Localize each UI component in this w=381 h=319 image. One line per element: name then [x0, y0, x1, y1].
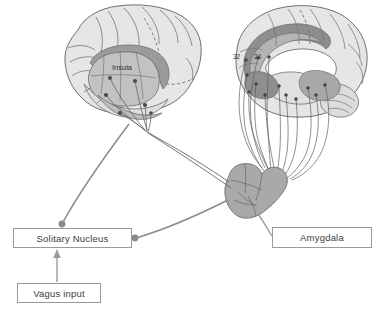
- right-medial-hemisphere: [236, 6, 367, 118]
- brainstem-amygdala-complex: [225, 164, 287, 219]
- amygdala-box[interactable]: Amygdala: [272, 227, 372, 248]
- arrow-vagus-to-solitary: [53, 249, 61, 282]
- left-lateral-hemisphere: [65, 5, 201, 120]
- connector-solitary-to-insula: [63, 124, 129, 222]
- solitary-nucleus-label: Solitary Nucleus: [37, 233, 109, 244]
- connector-brainstem-to-amygdala-label: [258, 214, 272, 236]
- solitary-nucleus-box[interactable]: Solitary Nucleus: [13, 228, 132, 248]
- amygdala-label: Amygdala: [300, 232, 344, 243]
- node-solitary-box-endpoint: [132, 235, 139, 242]
- vagus-input-label: Vagus input: [33, 288, 85, 299]
- brain-connectivity-diagram: [0, 0, 381, 319]
- connector-left-cortex-to-brainstem: [147, 132, 229, 182]
- node-solitary-to-insula-endpoint: [59, 221, 66, 228]
- vagus-input-box[interactable]: Vagus input: [17, 283, 101, 303]
- insula-region: [88, 52, 159, 106]
- figure-canvas: Insula 32 24 Solitary Nucleus Vagus inpu…: [0, 0, 381, 319]
- connector-left-cortex-to-brainstem-2: [148, 133, 231, 188]
- brainstem-body: [225, 164, 287, 219]
- connector-solitary-to-brainstem: [136, 200, 228, 238]
